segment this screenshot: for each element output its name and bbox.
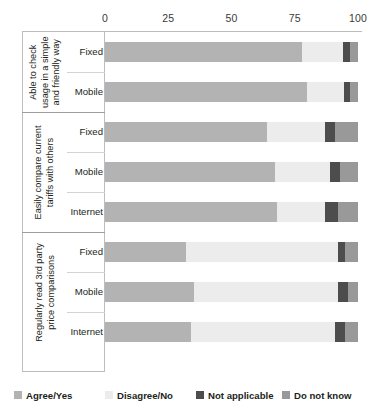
bar-segment-not-applicable <box>343 42 351 62</box>
row-separator <box>67 312 105 313</box>
legend-label: Not applicable <box>208 390 274 401</box>
bar-segment-agree-yes <box>105 162 275 182</box>
bar-segment-disagree-no <box>191 322 335 342</box>
bar-segment-agree-yes <box>105 322 191 342</box>
x-axis-tick-labels: 0255075100 <box>0 12 372 28</box>
legend-label: Do not know <box>294 390 352 401</box>
bar-segment-agree-yes <box>105 42 302 62</box>
bar-segment-not-applicable <box>338 242 346 262</box>
stacked-bar <box>105 162 358 182</box>
legend-label: Agree/Yes <box>26 390 72 401</box>
bar-row: Fixed <box>22 112 362 152</box>
bar-segment-agree-yes <box>105 242 186 262</box>
bar-segment-do-not-know <box>338 202 358 222</box>
row-label-fixed: Fixed <box>67 246 103 257</box>
legend-item-do-not-know[interactable]: Do not know <box>282 390 352 401</box>
bar-segment-not-applicable <box>338 282 348 302</box>
row-label-internet: Internet <box>67 206 103 217</box>
row-label-mobile: Mobile <box>67 286 103 297</box>
bar-segment-not-applicable <box>330 162 340 182</box>
bar-row: Mobile <box>22 272 362 312</box>
bar-segment-disagree-no <box>186 242 338 262</box>
legend-swatch-icon <box>282 391 290 399</box>
stacked-bar <box>105 322 358 342</box>
bar-segment-do-not-know <box>350 42 358 62</box>
bar-row: Fixed <box>22 32 362 72</box>
legend-swatch-icon <box>105 391 113 399</box>
stacked-bar <box>105 242 358 262</box>
stacked-bar <box>105 42 358 62</box>
row-label-internet: Internet <box>67 326 103 337</box>
bar-group-2: Regularly read 3rd partyprice comparison… <box>22 232 362 352</box>
row-label-fixed: Fixed <box>67 46 103 57</box>
bar-segment-do-not-know <box>345 322 358 342</box>
bar-segment-agree-yes <box>105 122 267 142</box>
row-label-mobile: Mobile <box>67 86 103 97</box>
bar-segment-do-not-know <box>348 282 358 302</box>
bar-segment-disagree-no <box>194 282 338 302</box>
row-separator <box>67 192 105 193</box>
bar-row: Fixed <box>22 232 362 272</box>
bar-segment-disagree-no <box>275 162 331 182</box>
row-separator <box>67 72 105 73</box>
legend-item-disagree-no[interactable]: Disagree/No <box>105 390 173 401</box>
legend-label: Disagree/No <box>117 390 173 401</box>
chart-legend: Agree/YesDisagree/NoNot applicableDo not… <box>0 386 372 404</box>
bar-group-1: Easily compare currenttariffs with other… <box>22 112 362 232</box>
bar-segment-disagree-no <box>307 82 344 102</box>
bar-row: Mobile <box>22 152 362 192</box>
row-separator <box>67 272 105 273</box>
legend-swatch-icon <box>196 391 204 399</box>
bar-group-0: Able to checkusage in a simpleand friend… <box>22 32 362 112</box>
bar-segment-not-applicable <box>325 122 335 142</box>
bar-segment-do-not-know <box>350 82 358 102</box>
stacked-bar <box>105 122 358 142</box>
stacked-bar <box>105 282 358 302</box>
x-axis-tick-50: 50 <box>225 12 237 24</box>
legend-swatch-icon <box>14 391 22 399</box>
bar-segment-disagree-no <box>277 202 325 222</box>
bar-segment-not-applicable <box>325 202 338 222</box>
x-axis-tick-0: 0 <box>102 12 108 24</box>
legend-item-not-applicable[interactable]: Not applicable <box>196 390 274 401</box>
stacked-bar-chart: 0255075100 Able to checkusage in a simpl… <box>0 0 372 416</box>
stacked-bar <box>105 82 358 102</box>
bar-segment-not-applicable <box>335 322 345 342</box>
bar-segment-do-not-know <box>335 122 358 142</box>
bar-row: Internet <box>22 312 362 352</box>
x-axis-tick-75: 75 <box>289 12 301 24</box>
bar-row: Internet <box>22 192 362 232</box>
bar-segment-do-not-know <box>340 162 358 182</box>
x-axis-tick-25: 25 <box>162 12 174 24</box>
x-axis-tick-100: 100 <box>349 12 367 24</box>
stacked-bar <box>105 202 358 222</box>
bar-row: Mobile <box>22 72 362 112</box>
bar-segment-disagree-no <box>267 122 325 142</box>
legend-item-agree-yes[interactable]: Agree/Yes <box>14 390 72 401</box>
bar-segment-agree-yes <box>105 202 277 222</box>
bar-segment-agree-yes <box>105 282 194 302</box>
row-label-mobile: Mobile <box>67 166 103 177</box>
plot-area: Able to checkusage in a simpleand friend… <box>22 32 362 372</box>
bar-segment-agree-yes <box>105 82 307 102</box>
bar-segment-disagree-no <box>302 42 342 62</box>
row-label-fixed: Fixed <box>67 126 103 137</box>
row-separator <box>67 152 105 153</box>
bar-segment-do-not-know <box>345 242 358 262</box>
